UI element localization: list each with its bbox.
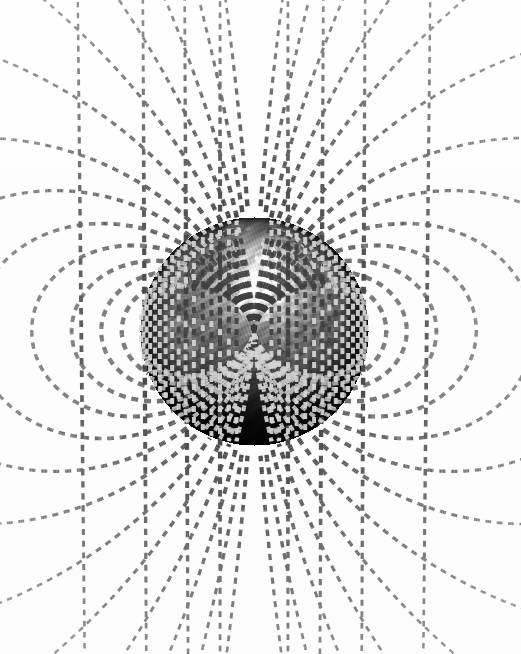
magnetic-field-figure: Earth's magnetic dipole field bbox=[0, 0, 521, 654]
earth-magnetic-field-illustration bbox=[0, 0, 521, 654]
